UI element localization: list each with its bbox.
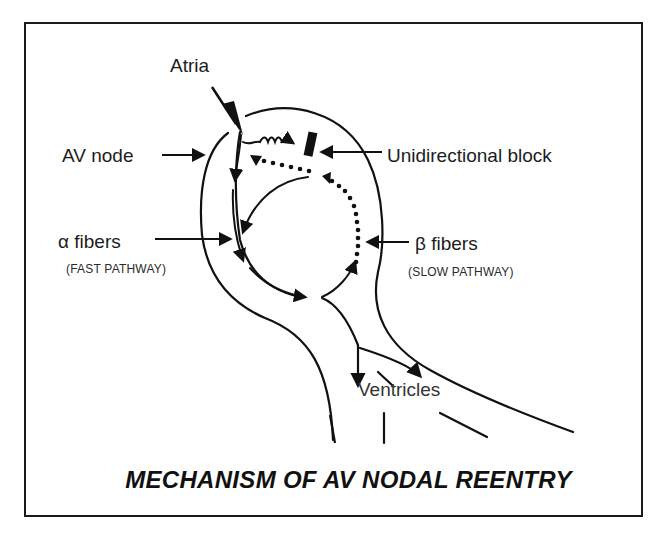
label-unidirectional-block: Unidirectional block — [387, 146, 552, 165]
label-atria: Atria — [170, 56, 209, 75]
wavy-blocked-impulse — [243, 138, 293, 144]
figure-title: MECHANISM OF AV NODAL REENTRY — [0, 466, 661, 494]
av-node-outer-left-boundary — [201, 133, 333, 440]
av-nodal-reentry-figure: Atria AV node Unidirectional block α fib… — [0, 0, 661, 534]
slow-pathway-dotted — [250, 155, 360, 264]
ventricle-branch-right — [360, 348, 420, 376]
unidirectional-block-bar — [304, 131, 318, 156]
ventricle-line-right — [440, 413, 487, 437]
label-slow-pathway: (SLOW PATHWAY) — [408, 266, 514, 278]
label-fast-pathway: (FAST PATHWAY) — [66, 263, 166, 275]
loop-arrow-up — [322, 262, 355, 297]
label-beta-fibers: β fibers — [415, 234, 478, 253]
fast-arrow-3 — [250, 268, 305, 297]
inner-return-arc — [243, 177, 308, 232]
his-bundle-trunk — [322, 298, 358, 345]
label-av-node: AV node — [62, 146, 133, 165]
label-ventricles: Ventricles — [358, 380, 440, 399]
atria-arrow — [212, 87, 243, 135]
label-alpha-fibers: α fibers — [58, 232, 121, 251]
alpha-pathway-track — [236, 132, 300, 297]
